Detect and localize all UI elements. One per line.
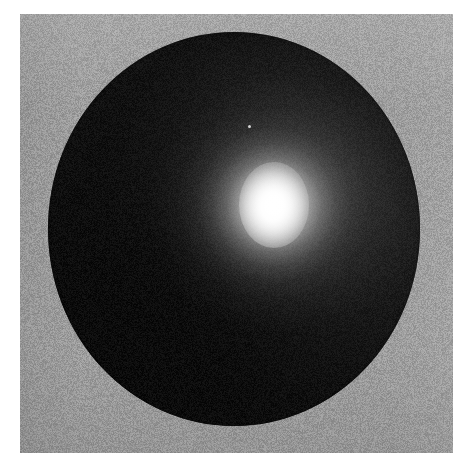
shaded-sphere bbox=[48, 32, 420, 426]
image-plate-background bbox=[20, 14, 453, 453]
figure-canvas: Shaded sphere with specular highlight bbox=[0, 0, 472, 473]
sphere-core-shadow bbox=[48, 32, 420, 426]
